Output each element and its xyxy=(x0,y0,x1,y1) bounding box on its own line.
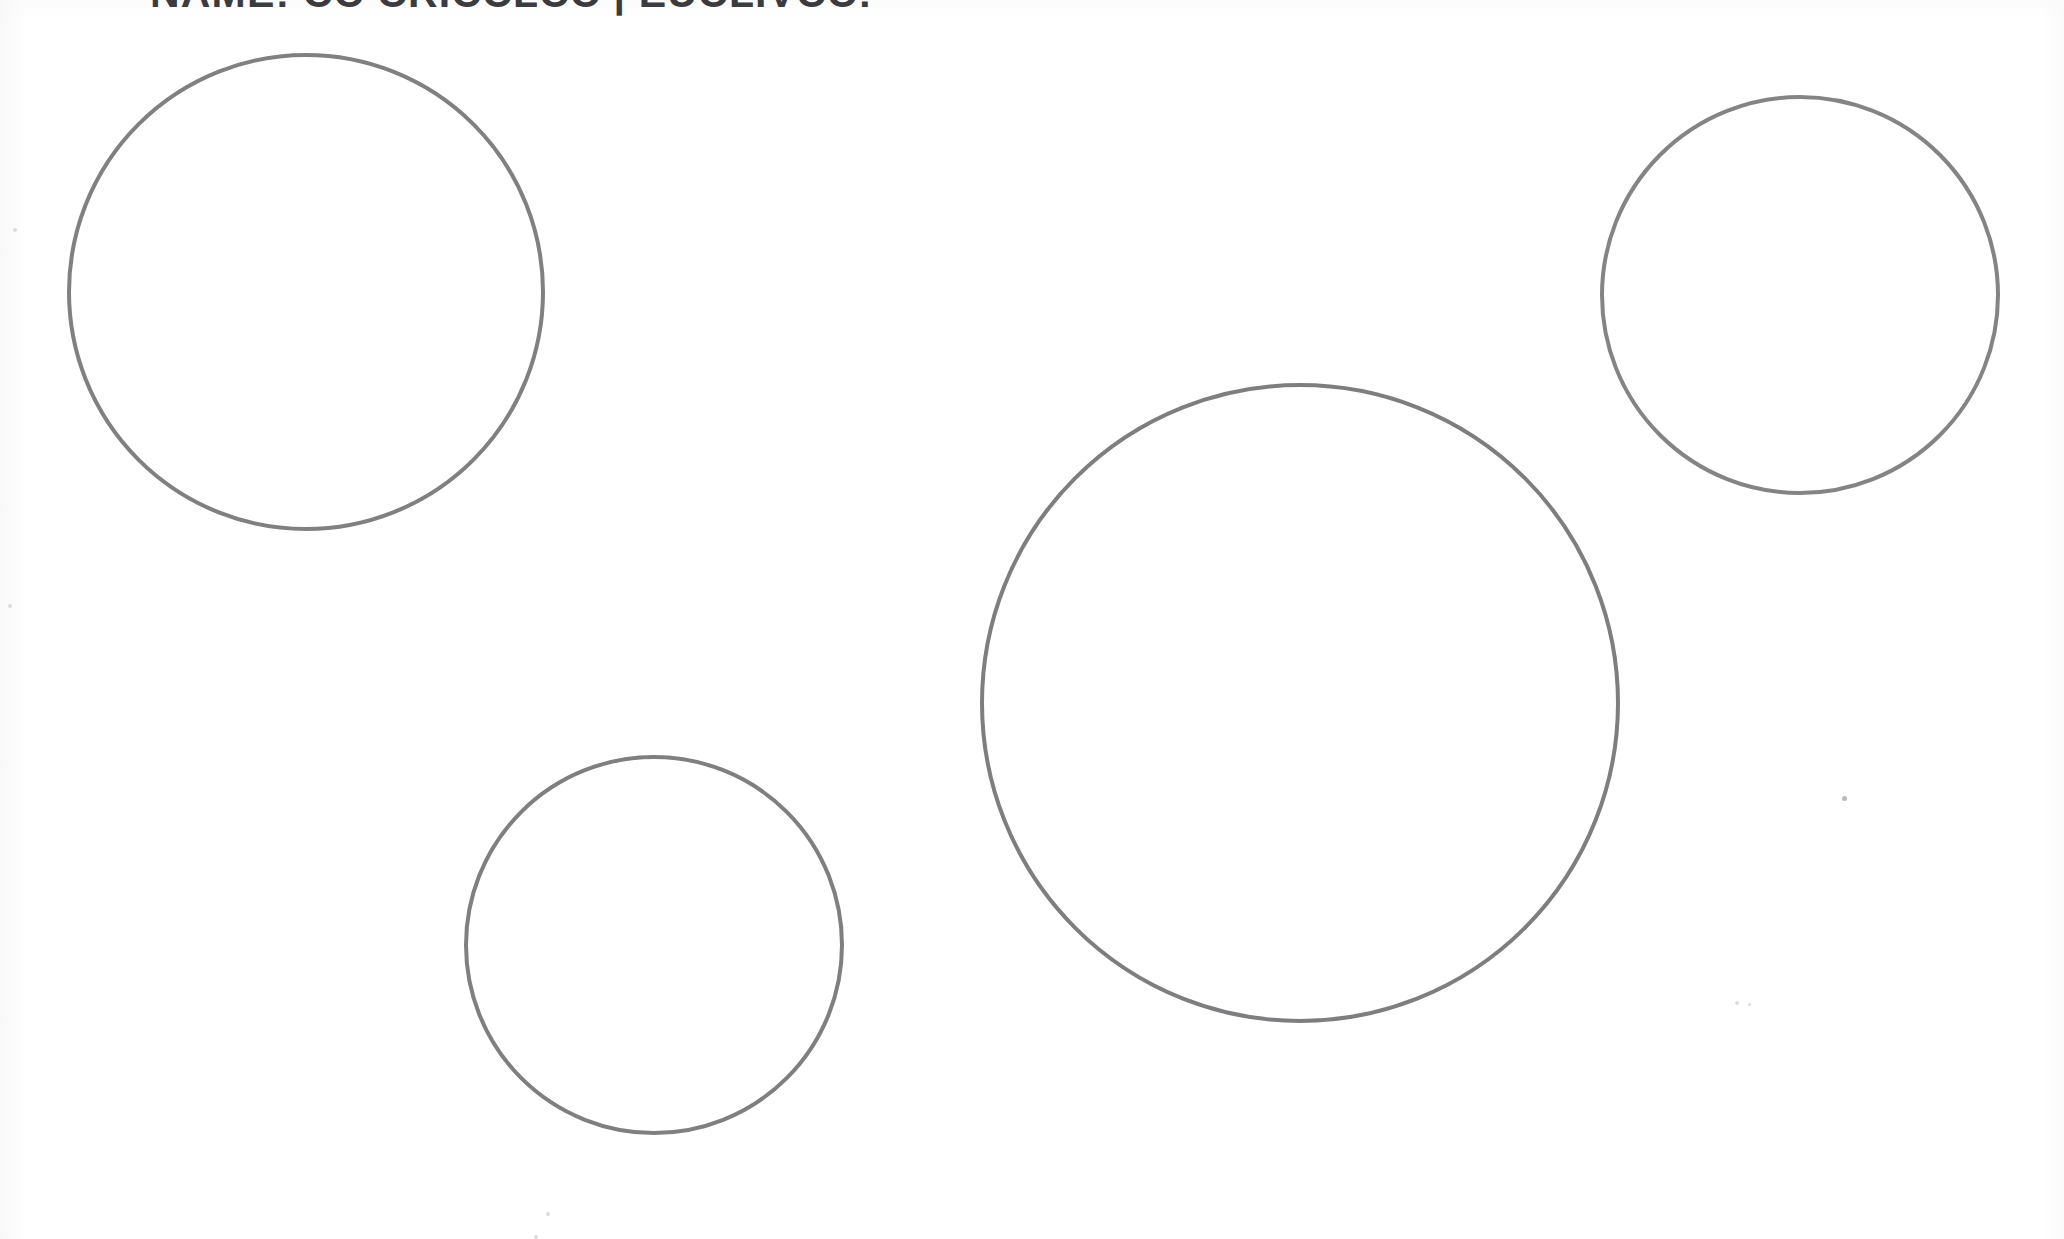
worksheet-page: NAME: CC CRICCLCC | EUCLIVCC: xyxy=(0,0,2064,1239)
scan-speck-right-lower-2 xyxy=(1748,1003,1751,1006)
scan-speck-right-lower xyxy=(1735,1001,1739,1005)
scan-speck-mid-left xyxy=(8,604,12,608)
scan-speck-bottom-left xyxy=(546,1212,550,1216)
circle-large-top-left xyxy=(67,53,545,531)
circle-small-bottom-left xyxy=(464,755,844,1135)
clipped-header-region: NAME: CC CRICCLCC | EUCLIVCC: xyxy=(0,0,2064,16)
page-title: NAME: CC CRICCLCC | EUCLIVCC: xyxy=(150,0,873,16)
scan-speck-bottom-left-2 xyxy=(534,1235,538,1239)
circle-small-top-right xyxy=(1600,95,2000,495)
scan-speck-right xyxy=(1842,796,1847,801)
circle-medium-center xyxy=(980,383,1620,1023)
scan-speck-upper-left xyxy=(13,228,17,232)
